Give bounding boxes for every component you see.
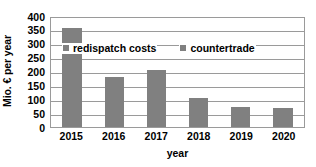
y-axis-tick-label: 300 — [27, 39, 45, 50]
chart-legend: redispatch costscountertrade — [62, 43, 256, 54]
bar-slot — [178, 18, 220, 127]
y-axis-tick-label: 400 — [27, 11, 45, 22]
y-axis-tick-label: 0 — [39, 122, 45, 133]
bar-slot — [220, 18, 262, 127]
y-axis-tick-label: 50 — [33, 108, 45, 119]
bar — [231, 107, 250, 126]
x-axis-tick-labels: 201520162017201820192020 — [50, 130, 305, 142]
y-axis-tick-label: 350 — [27, 25, 45, 36]
bar — [189, 98, 208, 126]
y-axis-tick-label: 150 — [27, 81, 45, 92]
bar — [147, 70, 166, 127]
x-axis-tick-label: 2019 — [220, 130, 263, 142]
bar-slot — [51, 18, 93, 127]
y-axis-title-label: Mio. € per year — [1, 35, 13, 107]
bar — [273, 108, 292, 127]
x-axis-tick-label: 2018 — [178, 130, 221, 142]
legend-swatch-icon — [180, 45, 186, 51]
legend-entry: redispatch costs — [62, 43, 157, 54]
x-axis-title: year — [50, 147, 305, 159]
legend-swatch-icon — [63, 45, 69, 51]
y-axis-tick-labels: 400350300250200150100500 — [14, 11, 47, 133]
y-axis-tick-label: 200 — [27, 67, 45, 78]
bar — [105, 77, 124, 127]
legend-label: redispatch costs — [73, 43, 156, 54]
y-axis-tick-label: 250 — [27, 53, 45, 64]
bar-slot — [135, 18, 177, 127]
legend-entry: countertrade — [179, 43, 255, 54]
x-axis-tick-label: 2017 — [135, 130, 178, 142]
bar-chart: Mio. € per year 400350300250200150100500… — [0, 0, 316, 167]
y-axis-title: Mio. € per year — [0, 12, 14, 130]
x-axis-tick-label: 2016 — [93, 130, 136, 142]
plot-area — [50, 17, 305, 128]
bar-slot — [93, 18, 135, 127]
x-axis-tick-label: 2020 — [263, 130, 306, 142]
y-axis-tick-label: 100 — [27, 95, 45, 106]
legend-label: countertrade — [190, 43, 254, 54]
bars-layer — [51, 18, 304, 127]
x-axis-tick-label: 2015 — [50, 130, 93, 142]
bar-slot — [262, 18, 304, 127]
